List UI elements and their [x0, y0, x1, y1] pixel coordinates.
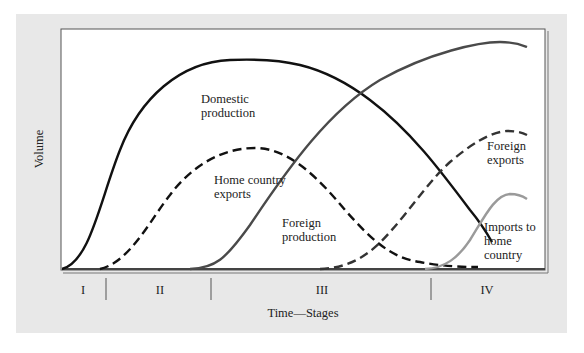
label-foreign-production-2: production [282, 230, 337, 244]
stage-label-iv: IV [480, 283, 493, 297]
stage-label-ii: II [156, 283, 164, 297]
stage-label-iii: III [316, 283, 329, 297]
label-foreign-exports-1: Foreign [487, 139, 527, 153]
label-foreign-exports-2: exports [487, 153, 524, 167]
product-life-cycle-chart: Domestic production Home country exports… [0, 0, 584, 353]
label-foreign-production-1: Foreign [282, 216, 322, 230]
label-home-country-exports-2: exports [214, 187, 251, 201]
label-domestic-production-1: Domestic [201, 92, 249, 106]
x-axis-label: Time—Stages [267, 306, 338, 320]
label-domestic-production-2: production [201, 106, 256, 120]
label-imports-2: home [484, 234, 512, 248]
label-home-country-exports-1: Home country [214, 173, 287, 187]
label-imports-3: country [484, 248, 523, 262]
y-axis-label: Volume [32, 129, 46, 168]
label-imports-1: Imports to [484, 220, 536, 234]
stage-label-i: I [81, 283, 85, 297]
